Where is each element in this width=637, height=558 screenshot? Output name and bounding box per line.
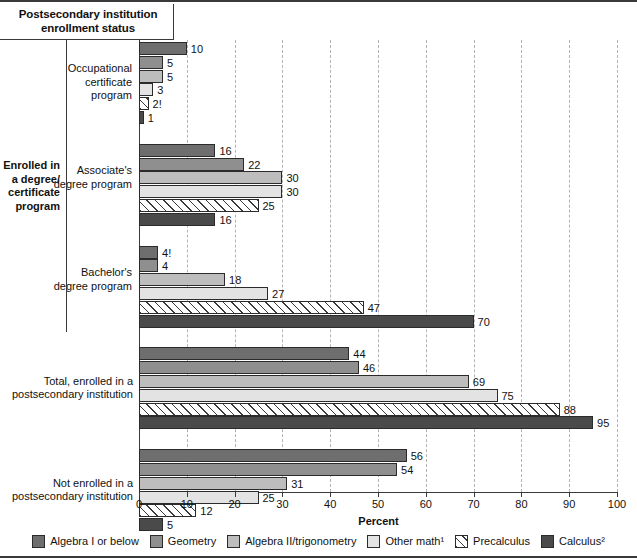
tick-60	[426, 492, 427, 497]
tick-label-90: 90	[549, 498, 589, 510]
bar-value-label: 18	[229, 274, 241, 287]
tick-label-50: 50	[358, 498, 398, 510]
bar-value-label: 44	[353, 348, 365, 361]
legend-item: Geometry	[150, 535, 216, 548]
bar	[139, 361, 359, 374]
bar	[139, 287, 268, 300]
bar-value-label: 2!	[153, 98, 162, 111]
category-label: Associate's degree program	[52, 164, 132, 191]
figure-container: Postsecondary institution enrollment sta…	[0, 0, 637, 558]
bar-value-label: 25	[263, 200, 275, 213]
tick-label-40: 40	[310, 498, 350, 510]
legend-label: Algebra I or below	[50, 535, 139, 547]
bar-value-label: 5	[167, 57, 173, 70]
tick-70	[474, 492, 475, 497]
category-label: Not enrolled in a postsecondary institut…	[3, 477, 133, 504]
bar	[139, 246, 158, 259]
tick-10	[187, 492, 188, 497]
tick-30	[282, 492, 283, 497]
bar-value-label: 75	[502, 390, 514, 403]
tick-20	[235, 492, 236, 497]
bar	[139, 199, 259, 212]
bar-value-label: 3	[157, 84, 163, 97]
bar-value-label: 56	[411, 450, 423, 463]
category-label: Total, enrolled in a postsecondary insti…	[3, 375, 133, 402]
tick-50	[378, 492, 379, 497]
legend-swatch-icon	[367, 535, 380, 548]
category-label: Bachelor's degree program	[52, 266, 132, 293]
bar	[139, 416, 593, 429]
legend-swatch-icon	[150, 535, 163, 548]
tick-label-80: 80	[501, 498, 541, 510]
bar	[139, 259, 158, 272]
bar	[139, 185, 282, 198]
tick-90	[569, 492, 570, 497]
bar	[139, 158, 244, 171]
tick-label-70: 70	[454, 498, 494, 510]
tick-40	[330, 492, 331, 497]
bar	[139, 315, 474, 328]
bar	[139, 477, 287, 490]
legend: Algebra I or belowGeometryAlgebra II/tri…	[0, 530, 637, 552]
bar	[139, 273, 225, 286]
tick-100	[617, 492, 618, 497]
bar-value-label: 10	[191, 43, 203, 56]
x-axis-title: Percent	[139, 515, 618, 527]
legend-swatch-icon	[32, 535, 45, 548]
bar	[139, 347, 349, 360]
bar-value-label: 47	[368, 302, 380, 315]
bar	[139, 97, 149, 110]
bar	[139, 144, 215, 157]
bar-value-label: 27	[272, 288, 284, 301]
bar-value-label: 1	[148, 112, 154, 125]
bar	[139, 83, 153, 96]
legend-swatch-icon	[227, 535, 240, 548]
bar	[139, 389, 498, 402]
bar-value-label: 4!	[162, 247, 171, 260]
bar	[139, 403, 560, 416]
bar-value-label: 70	[478, 316, 490, 329]
bar	[139, 56, 163, 69]
bar-value-label: 69	[473, 376, 485, 389]
bar-value-label: 30	[286, 172, 298, 185]
page-title: Postsecondary institution enrollment sta…	[6, 7, 170, 35]
bar-value-label: 46	[363, 362, 375, 375]
header-box: Postsecondary institution enrollment sta…	[0, 4, 174, 40]
bar	[139, 449, 407, 462]
tick-label-10: 10	[167, 498, 207, 510]
legend-item: Other math¹	[367, 535, 444, 548]
legend-item: Calculus²	[541, 535, 605, 548]
group-bracket	[66, 40, 67, 332]
bar-value-label: 30	[286, 186, 298, 199]
legend-swatch-icon	[541, 535, 554, 548]
legend-swatch-icon	[455, 535, 468, 548]
bar-value-label: 88	[564, 404, 576, 417]
bar	[139, 171, 282, 184]
legend-label: Algebra II/trigonometry	[245, 535, 356, 547]
legend-label: Geometry	[168, 535, 216, 547]
legend-label: Other math¹	[385, 535, 444, 547]
bar-value-label: 4	[162, 260, 168, 273]
tick-label-30: 30	[262, 498, 302, 510]
tick-label-100: 100	[597, 498, 637, 510]
legend-item: Precalculus	[455, 535, 530, 548]
tick-80	[521, 492, 522, 497]
bar-value-label: 31	[291, 478, 303, 491]
group-bracket-label: Enrolled in a degree/ certificate progra…	[2, 159, 60, 213]
plot-area: 105532!11622303025164!418274770444669758…	[139, 40, 617, 492]
bar-value-label: 5	[167, 71, 173, 84]
bar-value-label: 95	[597, 417, 609, 430]
bar	[139, 42, 187, 55]
bar-value-label: 54	[401, 464, 413, 477]
bar	[139, 213, 215, 226]
bar-value-label: 16	[219, 145, 231, 158]
bar	[139, 70, 163, 83]
bar	[139, 375, 469, 388]
legend-label: Calculus²	[559, 535, 605, 547]
bar	[139, 111, 144, 124]
tick-0	[139, 492, 140, 497]
category-label: Occupational certificate program	[52, 62, 132, 103]
tick-label-20: 20	[215, 498, 255, 510]
bar-value-label: 16	[219, 214, 231, 227]
bar-value-label: 22	[248, 159, 260, 172]
